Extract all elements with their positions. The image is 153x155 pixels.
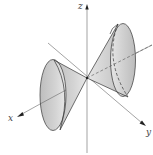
x-axis-label: x: [8, 113, 13, 123]
x-axis-arrow-icon: [17, 112, 24, 117]
origin-point: [86, 77, 88, 79]
y-axis-label: y: [145, 127, 152, 137]
z-axis-label: z: [77, 1, 83, 11]
z-axis-arrow-icon: [85, 4, 88, 10]
right-cone-nappe: [87, 24, 152, 98]
double-cone-diagram: z y x: [0, 0, 153, 155]
